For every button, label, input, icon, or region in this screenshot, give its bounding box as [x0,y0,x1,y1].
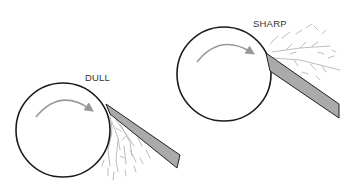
sharp-grinding-wheel [177,27,271,121]
sharp-label: SHARP [253,18,287,29]
sharp-panel [177,24,340,121]
sharp-blade [266,53,339,118]
dull-grinding-wheel [16,83,110,177]
dull-panel [16,83,180,180]
dull-label: DULL [85,72,110,83]
grinding-diagram [0,0,351,187]
